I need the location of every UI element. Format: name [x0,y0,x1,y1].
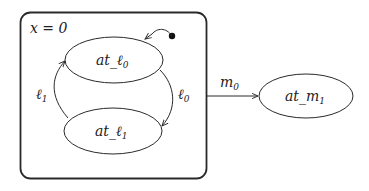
state-at-l0-label: at_ℓ [96,52,123,69]
state-at-l1-label: at_ℓ [95,123,122,140]
svg-text:at_ℓ1: at_ℓ1 [95,123,128,141]
state-at-l0: at_ℓ0 [65,37,163,83]
transition-l1-label: ℓ1 [36,86,48,104]
state-at-l1-subscript: 1 [122,131,128,141]
state-at-m1-label: at_m [285,88,319,105]
transition-l0-label: ℓ0 [178,86,190,104]
svg-text:at_ℓ0: at_ℓ0 [96,52,129,70]
composite-state-label: x = 0 [30,20,68,36]
svg-text:at_m1: at_m1 [285,88,325,106]
statechart-diagram: x = 0 at_ℓ0 at_ℓ1 at_m1 ℓ0 ℓ1 m0 [0,0,369,191]
state-at-l0-subscript: 0 [123,60,129,70]
state-at-m1: at_m1 [259,74,353,118]
transition-l1-arrow [54,61,68,118]
transition-m0-label: m0 [220,74,239,92]
transition-l0-arrow [160,70,173,126]
initial-transition-arrow [145,29,172,39]
state-at-l1: at_ℓ1 [64,108,162,154]
state-at-m1-subscript: 1 [319,96,325,106]
